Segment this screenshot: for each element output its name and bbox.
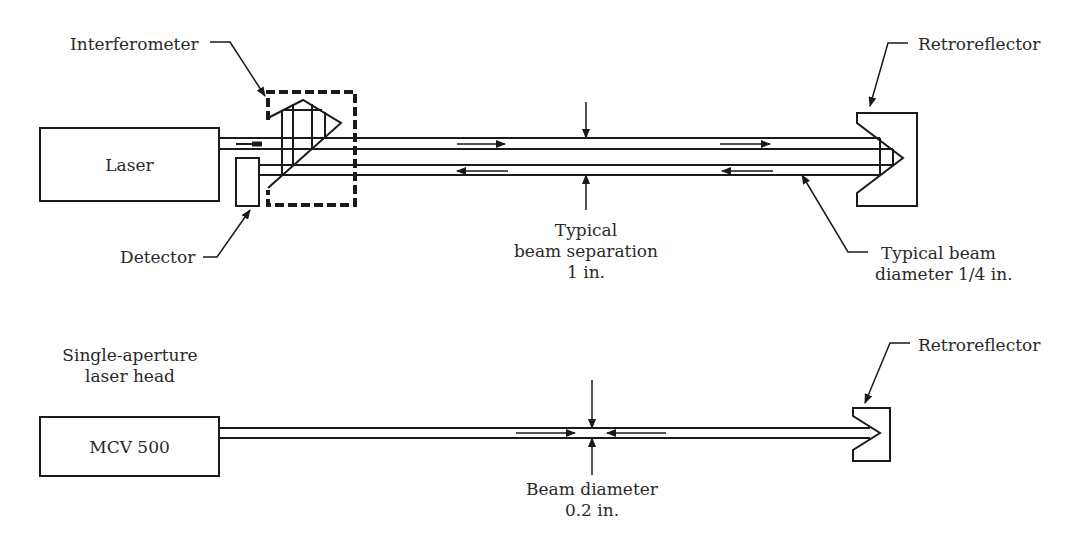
interferometer-label: Interferometer (70, 34, 199, 55)
beam-diameter-bottom-line1: Beam diameter (512, 479, 672, 500)
retroreflector-top-label: Retroreflector (918, 34, 1040, 55)
retroreflector-bottom-label: Retroreflector (918, 335, 1040, 356)
beam-separation-line1: Typical (506, 220, 666, 241)
caption-line2: laser head (40, 366, 220, 387)
single-aperture-caption: Single-aperture laser head (40, 345, 220, 387)
caption-line1: Single-aperture (40, 345, 220, 366)
beam-separation-line2: beam separation (506, 241, 666, 262)
beam-separation-label: Typical beam separation 1 in. (506, 220, 666, 283)
beam-diameter-top-label: Typical beam diameter 1/4 in. (875, 243, 1013, 285)
beam-diameter-bottom-label: Beam diameter 0.2 in. (512, 479, 672, 521)
detector-box (236, 158, 259, 206)
mcv500-label: MCV 500 (40, 417, 219, 476)
beam-diameter-bottom-line2: 0.2 in. (512, 500, 672, 521)
retroreflector-bottom (853, 408, 890, 461)
beam-diameter-top-line2: diameter 1/4 in. (875, 264, 1013, 285)
beam-diameter-top-line1: Typical beam (875, 243, 1013, 264)
detector-label: Detector (120, 247, 195, 268)
beam-separation-line3: 1 in. (506, 262, 666, 283)
retroreflector-top (857, 113, 917, 206)
laser-label: Laser (40, 128, 219, 201)
